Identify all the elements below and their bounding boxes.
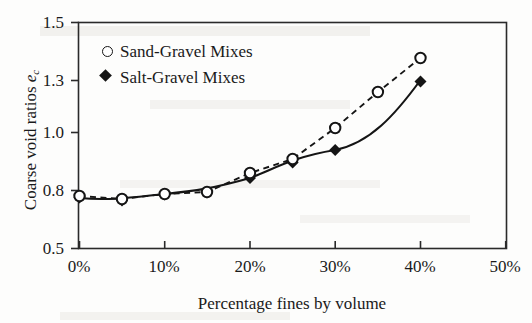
x-tick-label-2: 10% <box>137 258 191 275</box>
y-axis-title-text: Coarse void ratios <box>21 82 40 210</box>
legend-item-sand-gravel: Sand-Gravel Mixes <box>100 38 300 64</box>
x-axis-title: Percentage fines by volume <box>78 294 506 314</box>
x-tick-label-1: 0% <box>52 258 106 275</box>
x-tick-label-6: 50% <box>478 258 532 275</box>
figure-container: 1.5 1.3 1.0 0.8 0.5 0% 10% 20% 30% 40% 5… <box>0 0 532 323</box>
y-axis-title: Coarse void ratios ec <box>21 25 41 255</box>
x-tick-label-4: 30% <box>308 258 362 275</box>
x-tick-label-3: 20% <box>223 258 277 275</box>
legend-label-sand-gravel: Sand-Gravel Mixes <box>120 43 253 60</box>
y-axis-title-symbol: e <box>21 75 40 83</box>
x-tick-label-5: 40% <box>393 258 447 275</box>
legend-item-salt-gravel: Salt-Gravel Mixes <box>100 64 300 90</box>
open-circle-icon <box>100 43 117 60</box>
filled-diamond-icon <box>100 69 117 86</box>
legend-label-salt-gravel: Salt-Gravel Mixes <box>120 69 245 86</box>
y-axis-title-subscript: c <box>29 70 41 75</box>
chart-legend: Sand-Gravel Mixes Salt-Gravel Mixes <box>100 38 300 90</box>
